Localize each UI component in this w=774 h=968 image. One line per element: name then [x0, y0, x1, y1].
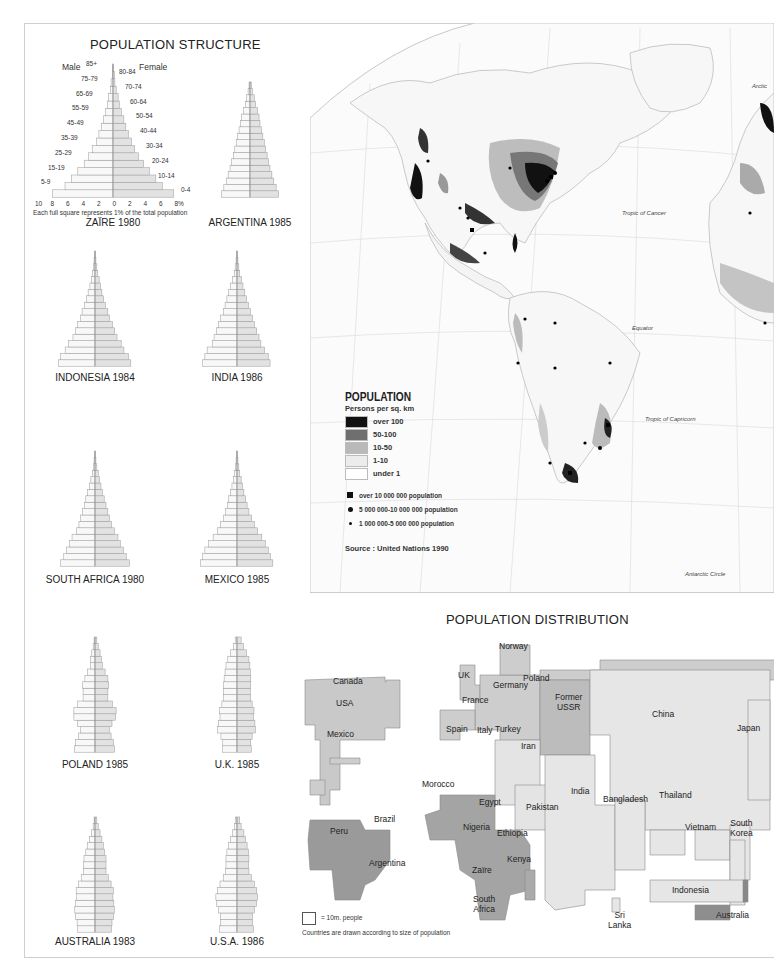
- country-label: Norway: [499, 641, 528, 651]
- age-label: 45-49: [67, 119, 84, 126]
- pyramid-chart: [15, 815, 175, 934]
- arctic-label: Arctic: [752, 83, 767, 89]
- legend-swatch: [345, 468, 368, 480]
- pyramid-chart: [157, 249, 317, 368]
- tropic-of-capricorn-label: Tropic of Capricorn: [645, 416, 696, 422]
- country-label: Ethiopia: [497, 828, 528, 838]
- country-label: India: [571, 786, 589, 796]
- axis-tick: 8%: [175, 200, 184, 207]
- country-label: SouthAfrica: [473, 894, 495, 914]
- dot-large-icon: [345, 507, 355, 512]
- legend-class-label: 1-10: [373, 456, 388, 465]
- pyramid-title: INDIA 1986: [172, 372, 302, 383]
- country-label: Turkey: [495, 724, 521, 734]
- country-label: Egypt: [479, 797, 501, 807]
- country-label: Argentina: [369, 858, 405, 868]
- legend-class: under 1: [345, 467, 458, 480]
- axis-tick: 8: [51, 200, 55, 207]
- pyramid-title: INDONESIA 1984: [30, 372, 160, 383]
- country-label: Vietnam: [685, 822, 716, 832]
- age-label: 20-24: [152, 157, 169, 164]
- age-label: 70-74: [125, 83, 142, 90]
- legend-class: 1-10: [345, 454, 458, 467]
- axis-tick: 0: [113, 200, 117, 207]
- age-label: 85+: [86, 60, 97, 67]
- legend-swatch: [345, 429, 368, 441]
- pyramid-chart: [15, 249, 175, 368]
- square-icon: [345, 492, 355, 498]
- pyramid-title: ARGENTINA 1985: [185, 217, 315, 228]
- country-label: Bangladesh: [603, 794, 648, 804]
- country-label: Zaïre: [472, 865, 492, 875]
- age-label: 35-39: [61, 134, 78, 141]
- legend-class-label: 10-50: [373, 443, 392, 452]
- cartogram-note: Countries are drawn according to size of…: [302, 929, 450, 936]
- pyramid-title: POLAND 1985: [30, 759, 160, 770]
- axis-tick: 6: [66, 200, 70, 207]
- pyramid-chart: [15, 449, 175, 568]
- country-label: Canada: [333, 676, 363, 686]
- antarctic-circle-label: Antarctic Circle: [685, 571, 725, 577]
- pyramid-chart: [15, 635, 175, 754]
- age-label: 0-4: [181, 186, 190, 193]
- equator-label: Equator: [632, 325, 653, 331]
- country-label: Japan: [737, 723, 760, 733]
- legend-source: Source : United Nations 1990: [345, 544, 458, 553]
- axis-tick: 6: [159, 200, 163, 207]
- axis-tick: 4: [82, 200, 86, 207]
- legend-swatch: [345, 455, 368, 467]
- legend-city-size: over 10 000 000 population: [345, 488, 458, 502]
- country-label: Indonesia: [672, 885, 709, 895]
- country-label: Australia: [716, 910, 749, 920]
- country-label: Germany: [493, 680, 528, 690]
- country-label: China: [652, 709, 674, 719]
- legend-class-label: 50-100: [373, 430, 396, 439]
- pyramid-title: U.S.A. 1986: [172, 936, 302, 947]
- country-label: Spain: [446, 724, 468, 734]
- age-label: 80-84: [119, 68, 136, 75]
- age-label: 30-34: [146, 142, 163, 149]
- legend-class: over 100: [345, 415, 458, 428]
- cartogram-key-square: [302, 912, 316, 925]
- legend-city-size: 5 000 000-10 000 000 population: [345, 502, 458, 516]
- legend-subtitle: Persons per sq. km: [345, 404, 458, 413]
- axis-tick: 2: [128, 200, 132, 207]
- age-label: 10-14: [158, 172, 175, 179]
- country-label: Nigeria: [463, 822, 490, 832]
- country-label: Peru: [330, 826, 348, 836]
- country-label: UK: [458, 670, 470, 680]
- axis-tick: 10: [35, 200, 42, 207]
- legend-swatch: [345, 442, 368, 454]
- age-label: 50-54: [136, 112, 153, 119]
- country-label: Morocco: [422, 779, 455, 789]
- country-label: FormerUSSR: [555, 692, 582, 712]
- age-label: 5-9: [41, 178, 50, 185]
- country-label: Iran: [521, 741, 536, 751]
- male-label: Male: [62, 62, 80, 72]
- age-label: 55-59: [72, 104, 89, 111]
- age-label: 40-44: [140, 127, 157, 134]
- legend-class-label: over 100: [373, 417, 403, 426]
- country-label: Kenya: [507, 854, 531, 864]
- legend-class: 10-50: [345, 441, 458, 454]
- female-label: Female: [139, 62, 167, 72]
- country-label: SriLanka: [608, 910, 631, 930]
- structure-title: POPULATION STRUCTURE: [90, 37, 261, 52]
- pyramid-title: U.K. 1985: [172, 759, 302, 770]
- distribution-title: POPULATION DISTRIBUTION: [446, 612, 629, 627]
- country-label: Mexico: [327, 729, 354, 739]
- density-legend: POPULATION Persons per sq. km over 10050…: [345, 390, 458, 553]
- country-label: SouthKorea: [730, 818, 753, 838]
- pyramid-title: SOUTH AFRICA 1980: [30, 574, 160, 585]
- pyramid-title: AUSTRALIA 1983: [30, 936, 160, 947]
- tropic-of-cancer-label: Tropic of Cancer: [622, 210, 666, 216]
- pyramid-title: MEXICO 1985: [172, 574, 302, 585]
- pyramid-title: ZAÏRE 1980: [48, 217, 178, 228]
- country-label: France: [462, 695, 488, 705]
- dot-small-icon: [345, 522, 355, 525]
- age-label: 75-79: [81, 75, 98, 82]
- cartogram-key-label: = 10m. people: [321, 914, 362, 921]
- pyramid-chart: [170, 80, 330, 199]
- age-label: 15-19: [48, 164, 65, 171]
- country-label: Italy: [477, 725, 493, 735]
